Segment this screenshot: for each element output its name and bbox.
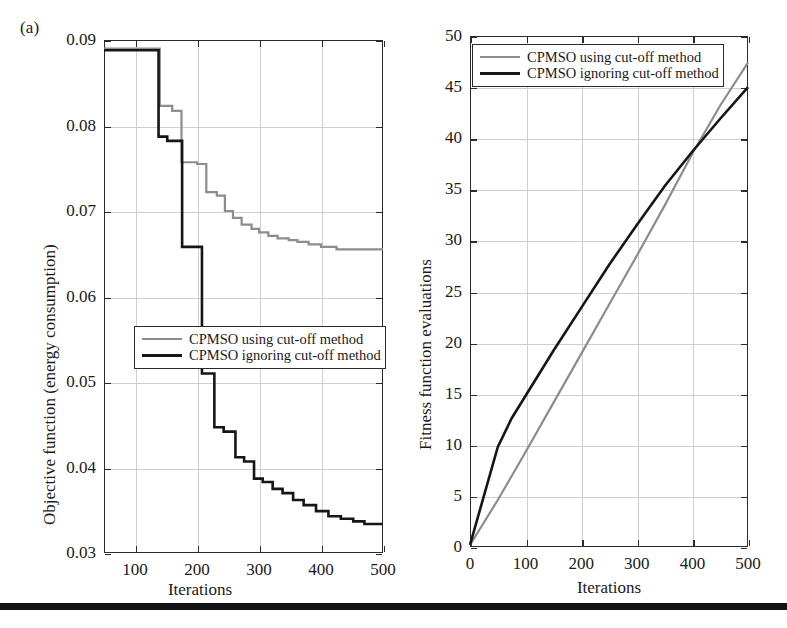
- legend-label: CPMSO ignoring cut-off method: [527, 65, 719, 81]
- legend-swatch-black-icon: [142, 354, 182, 357]
- legend-row: CPMSO using cut-off method: [480, 49, 716, 65]
- legend-swatch-gray-icon: [480, 56, 520, 58]
- series-layer-right: [400, 0, 787, 600]
- legend-swatch-black-icon: [480, 72, 520, 75]
- legend-row: CPMSO using cut-off method: [142, 331, 378, 347]
- legend-row: CPMSO ignoring cut-off method: [480, 65, 716, 81]
- bottom-rule: [0, 603, 787, 610]
- series-line: [104, 49, 383, 250]
- legend-row: CPMSO ignoring cut-off method: [142, 347, 378, 363]
- legend-label: CPMSO using cut-off method: [189, 331, 363, 347]
- legend-right: CPMSO using cut-off method CPMSO ignorin…: [472, 44, 724, 87]
- series-layer-left: [0, 0, 400, 600]
- legend-label: CPMSO using cut-off method: [527, 49, 701, 65]
- series-line: [104, 50, 383, 524]
- legend-left: CPMSO using cut-off method CPMSO ignorin…: [134, 326, 386, 369]
- legend-label: CPMSO ignoring cut-off method: [189, 347, 381, 363]
- fitness-evaluations-chart: Fitness function evaluations Iterations …: [400, 0, 787, 600]
- legend-swatch-gray-icon: [142, 338, 182, 340]
- objective-function-chart: Objective function (energy consumption) …: [0, 0, 400, 600]
